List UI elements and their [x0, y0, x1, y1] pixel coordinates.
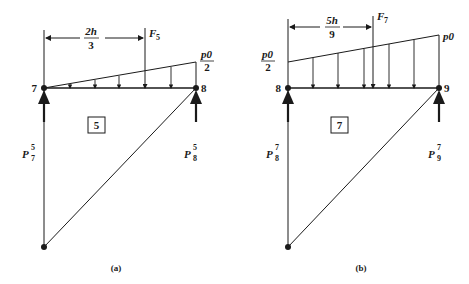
load-profile-line: [288, 35, 439, 62]
node-8: [285, 85, 291, 91]
force-subscript: 7: [384, 16, 388, 25]
reaction-right-base: P: [184, 148, 191, 160]
node-7: [41, 85, 47, 91]
node-bottom: [285, 244, 291, 250]
element-5-edge-diagonal: [44, 88, 196, 247]
reaction-right-base: P: [428, 148, 435, 160]
reaction-left-sub: 7: [31, 154, 35, 163]
load-right-numerator: p0: [200, 48, 213, 60]
diagram-canvas: 5 7 8 2h 3 F 5 p0 2 P 5 7 P 5 8 (a): [0, 0, 469, 284]
reaction-right-sub: 8: [193, 154, 197, 163]
caption-b: (b): [356, 263, 367, 273]
reaction-right-sup: 5: [193, 143, 197, 152]
node-8: [193, 85, 199, 91]
node-9: [436, 85, 442, 91]
dimension-numerator: 2h: [84, 25, 97, 37]
element-7-edge-diagonal: [288, 88, 439, 247]
caption-a: (a): [111, 263, 122, 273]
reaction-left-sup: 5: [31, 143, 35, 152]
element-label: 5: [94, 119, 100, 131]
node-label-left: 8: [276, 82, 282, 94]
load-left-denominator: 2: [265, 61, 271, 73]
node-label-left: 7: [32, 82, 38, 94]
reaction-left-sup: 7: [275, 143, 279, 152]
load-right-denominator: 2: [204, 61, 210, 73]
load-profile-line: [44, 62, 196, 88]
reaction-arrowhead-left: [38, 90, 50, 104]
dimension-denominator: 9: [329, 28, 335, 40]
reaction-right-sub: 9: [437, 154, 441, 163]
panel-a: [38, 28, 202, 250]
node-label-right: 8: [201, 82, 207, 94]
node-label-right: 9: [444, 82, 450, 94]
reaction-right-sup: 7: [437, 143, 441, 152]
panel-b: [282, 16, 445, 250]
reaction-arrowhead-left: [282, 90, 294, 104]
reaction-left-base: P: [266, 148, 273, 160]
reaction-left-sub: 8: [275, 154, 279, 163]
reaction-left-base: P: [22, 148, 29, 160]
load-left-numerator: p0: [261, 48, 274, 60]
force-subscript: 5: [156, 33, 160, 42]
node-bottom: [41, 244, 47, 250]
load-right-label: p0: [442, 30, 455, 42]
element-label: 7: [337, 119, 343, 131]
dimension-numerator: 5h: [326, 14, 338, 26]
dimension-denominator: 3: [88, 39, 94, 51]
